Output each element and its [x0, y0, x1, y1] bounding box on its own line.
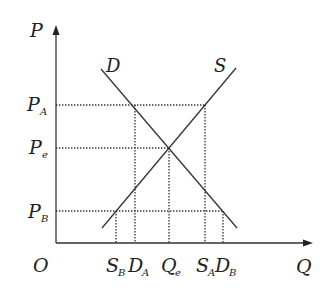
supply-demand-diagram: P Q O D S P A P e P B S B D A Q e S A D … [0, 0, 334, 290]
svg-text:P: P [26, 93, 41, 115]
quantity-label-db: D B [214, 254, 236, 278]
quantity-label-da: D A [127, 254, 149, 278]
svg-text:e: e [42, 149, 48, 160]
y-axis-arrow-icon [53, 25, 60, 35]
svg-text:B: B [117, 267, 125, 278]
supply-label: S [214, 55, 226, 76]
svg-text:A: A [141, 267, 149, 278]
quantity-label-qe: Q e [161, 254, 181, 278]
quantity-label-sb: S B [106, 254, 125, 278]
svg-text:B: B [40, 213, 48, 224]
price-label-pe: P e [28, 136, 48, 160]
price-label-pb: P B [27, 200, 48, 224]
svg-text:D: D [127, 254, 143, 276]
quantity-label-sa: S A [196, 254, 215, 278]
svg-text:P: P [27, 200, 42, 222]
svg-text:D: D [214, 254, 230, 276]
x-axis-arrow-icon [303, 240, 313, 247]
svg-text:P: P [28, 136, 43, 158]
guide-lines [56, 105, 223, 243]
origin-label: O [33, 254, 49, 276]
svg-text:B: B [228, 267, 236, 278]
demand-label: D [105, 55, 121, 76]
svg-text:A: A [207, 267, 215, 278]
x-axis-label: Q [296, 255, 312, 277]
svg-text:A: A [39, 106, 47, 117]
price-label-pa: P A [26, 93, 47, 117]
axes [56, 32, 306, 243]
svg-text:e: e [175, 267, 181, 278]
y-axis-label: P [29, 19, 44, 41]
